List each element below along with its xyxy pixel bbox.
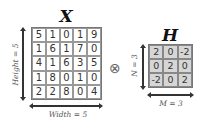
matrix-cell: 0 <box>163 45 177 59</box>
kernel-height-label: N = 3 <box>130 46 139 86</box>
kernel-width-label: M = 3 <box>150 99 192 108</box>
matrix-cell: 0 <box>163 73 177 87</box>
matrix-cell: 3 <box>73 56 87 70</box>
input-matrix-title: X <box>51 8 81 25</box>
matrix-cell: 1 <box>60 42 74 56</box>
matrix-cell: 7 <box>73 42 87 56</box>
kernel-matrix-grid: 2 0 -2 0 2 0 -2 0 2 <box>148 44 193 88</box>
matrix-cell: -2 <box>149 73 163 87</box>
matrix-cell: 1 <box>32 42 46 56</box>
matrix-cell: 1 <box>73 28 87 42</box>
matrix-cell: 0 <box>73 85 87 99</box>
matrix-cell: 2 <box>32 85 46 99</box>
matrix-cell: 6 <box>60 56 74 70</box>
matrix-cell: 4 <box>32 56 46 70</box>
matrix-cell: 6 <box>46 42 60 56</box>
matrix-cell: 2 <box>149 45 163 59</box>
matrix-cell: 8 <box>46 71 60 85</box>
matrix-cell: 1 <box>73 71 87 85</box>
matrix-cell: 2 <box>163 59 177 73</box>
input-matrix-grid: 5 1 0 1 9 1 6 1 7 0 4 1 6 3 5 1 8 0 1 0 … <box>31 27 102 100</box>
convolution-operator-icon: ⊗ <box>109 61 121 75</box>
matrix-cell: 1 <box>46 28 60 42</box>
matrix-cell: 0 <box>87 71 101 85</box>
matrix-cell: 4 <box>87 85 101 99</box>
matrix-cell: 0 <box>60 28 74 42</box>
matrix-cell: 0 <box>149 59 163 73</box>
kernel-matrix-title: H <box>155 27 185 44</box>
width-label: Width = 5 <box>40 110 96 119</box>
matrix-cell: 9 <box>87 28 101 42</box>
matrix-cell: 5 <box>32 28 46 42</box>
matrix-cell: 8 <box>60 85 74 99</box>
matrix-cell: 1 <box>32 71 46 85</box>
matrix-cell: 0 <box>178 59 192 73</box>
matrix-cell: 2 <box>46 85 60 99</box>
matrix-cell: -2 <box>178 45 192 59</box>
height-label: Height = 5 <box>11 37 20 93</box>
matrix-cell: 2 <box>178 73 192 87</box>
matrix-cell: 0 <box>60 71 74 85</box>
matrix-cell: 1 <box>46 56 60 70</box>
matrix-cell: 0 <box>87 42 101 56</box>
matrix-cell: 5 <box>87 56 101 70</box>
